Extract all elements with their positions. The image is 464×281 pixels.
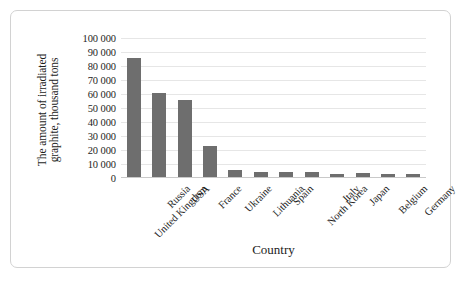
bar-slot [324,38,349,178]
x-axis-title: Country [121,242,426,258]
y-axis-tick-label: 0 [111,173,116,184]
bar-slot [350,38,375,178]
chart-frame: The amount of irradiated graphite, thous… [10,10,451,268]
y-axis-tick-label: 90 000 [88,47,116,58]
plot-area [121,38,426,178]
y-axis-tick-label: 20 000 [88,145,116,156]
bar-slot [223,38,248,178]
y-axis-tick-label: 50 000 [88,103,116,114]
x-axis-tick-label: Germany [423,183,458,218]
y-axis-title-line-1: The amount of irradiated [36,54,48,166]
bar-slot [299,38,324,178]
y-axis-title-line-2: graphite, thousand tons [48,58,60,163]
bar-slot [375,38,400,178]
bar-slot [248,38,273,178]
bar-slot [274,38,299,178]
bar[interactable] [127,58,141,178]
x-axis-tick-label: France [216,183,244,211]
bar[interactable] [178,100,192,178]
bar[interactable] [152,93,166,178]
bar-slot [197,38,222,178]
x-axis-tick-label: Ukraine [243,183,274,214]
y-axis-tick-label: 80 000 [88,61,116,72]
bar-slot [121,38,146,178]
bar-slot [146,38,171,178]
bar-series [121,38,426,178]
y-axis-tick-label: 10 000 [88,159,116,170]
y-axis-tick-label: 60 000 [88,89,116,100]
x-axis-tick-labels: United KingdomRussiaUSAFranceUkraineLith… [121,180,426,240]
bar-slot [401,38,426,178]
bar[interactable] [203,146,217,178]
y-axis-tick-label: 30 000 [88,131,116,142]
x-axis-tick-label: Japan [367,183,391,207]
bar-slot [172,38,197,178]
y-axis-tick-labels: 010 00020 00030 00040 00050 00060 00070 … [63,38,116,178]
y-axis-tick-label: 70 000 [88,75,116,86]
y-axis-tick-label: 40 000 [88,117,116,128]
y-axis-tick-label: 100 000 [83,33,116,44]
x-axis-baseline [121,177,426,178]
